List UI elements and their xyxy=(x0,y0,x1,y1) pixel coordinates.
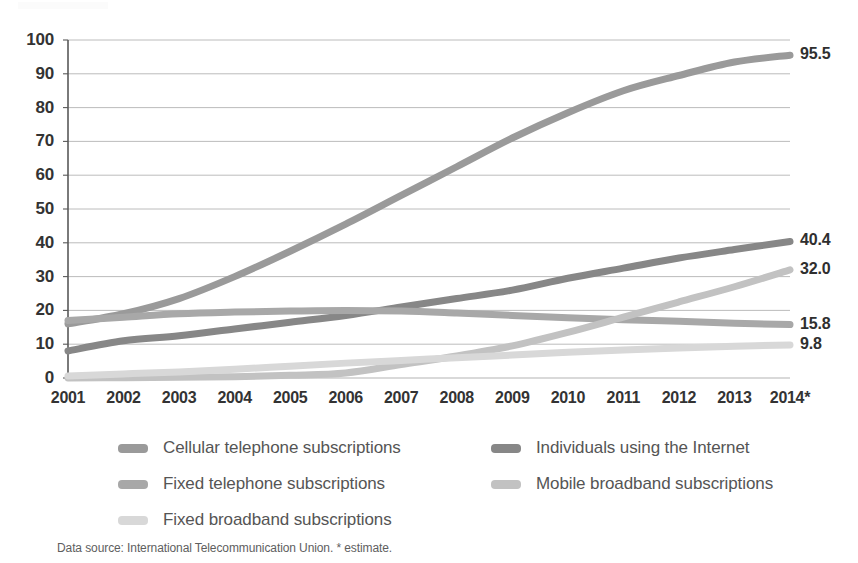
legend-item[interactable]: Fixed broadband subscriptions xyxy=(118,506,392,534)
series-end-label: 9.8 xyxy=(800,335,822,353)
legend-item-label: Fixed broadband subscriptions xyxy=(163,510,392,530)
x-tick-label: 2002 xyxy=(97,389,151,407)
legend-item-label: Mobile broadband subscriptions xyxy=(536,474,773,494)
series-line xyxy=(68,345,790,376)
chart-footnote: Data source: International Telecommunica… xyxy=(57,541,392,555)
x-tick-label: 2005 xyxy=(263,389,317,407)
legend-item-label: Fixed telephone subscriptions xyxy=(163,474,385,494)
legend-swatch-icon xyxy=(118,516,148,525)
series-end-label: 95.5 xyxy=(800,45,830,63)
x-tick-label: 2006 xyxy=(319,389,373,407)
x-tick-label: 2013 xyxy=(707,389,761,407)
series-line xyxy=(68,55,790,324)
legend-item[interactable]: Mobile broadband subscriptions xyxy=(491,470,773,498)
x-tick-label: 2008 xyxy=(430,389,484,407)
gridlines xyxy=(68,40,790,378)
legend-swatch-icon xyxy=(118,480,148,489)
x-tick-label: 2004 xyxy=(208,389,262,407)
legend-item[interactable]: Cellular telephone subscriptions xyxy=(118,434,401,462)
legend-swatch-icon xyxy=(491,444,521,453)
x-tick-label: 2011 xyxy=(596,389,650,407)
series-line xyxy=(68,310,790,324)
legend-swatch-icon xyxy=(491,480,521,489)
series-end-label: 32.0 xyxy=(800,260,830,278)
line-chart: 1009080706050403020100 20012002200320042… xyxy=(0,0,858,563)
legend-item-label: Cellular telephone subscriptions xyxy=(163,438,401,458)
x-tick-label: 2007 xyxy=(374,389,428,407)
series-end-label: 40.4 xyxy=(800,231,830,249)
legend-item[interactable]: Fixed telephone subscriptions xyxy=(118,470,385,498)
x-tick-label: 2003 xyxy=(152,389,206,407)
chart-legend: Cellular telephone subscriptionsIndividu… xyxy=(0,430,858,530)
x-tick-label: 2001 xyxy=(41,389,95,407)
x-tick-label: 2014* xyxy=(763,389,817,407)
legend-swatch-icon xyxy=(118,444,148,453)
legend-item-label: Individuals using the Internet xyxy=(536,438,749,458)
legend-item[interactable]: Individuals using the Internet xyxy=(491,434,749,462)
series-end-label: 15.8 xyxy=(800,315,830,333)
x-tick-label: 2010 xyxy=(541,389,595,407)
x-tick-label: 2012 xyxy=(652,389,706,407)
series-lines xyxy=(68,55,790,378)
x-tick-label: 2009 xyxy=(485,389,539,407)
